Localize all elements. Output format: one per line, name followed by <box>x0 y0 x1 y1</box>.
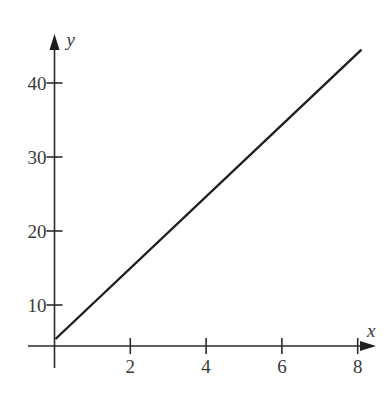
x-tick-label: 6 <box>277 356 287 377</box>
y-axis-arrow-icon <box>50 34 60 50</box>
y-tick-label: 20 <box>28 221 47 242</box>
x-axis-label: x <box>366 320 376 341</box>
data-line <box>56 50 362 339</box>
x-tick-label: 4 <box>201 356 211 377</box>
x-tick-label: 2 <box>126 356 136 377</box>
data-series <box>56 50 362 339</box>
y-axis-label: y <box>65 29 76 50</box>
y-tick-label: 40 <box>28 73 47 94</box>
y-tick-label: 10 <box>28 295 47 316</box>
line-chart: x y 2468 10203040 <box>0 0 391 393</box>
y-tick-label: 30 <box>28 147 47 168</box>
y-ticks: 10203040 <box>28 73 63 316</box>
x-tick-label: 8 <box>353 356 363 377</box>
x-axis-arrow-icon <box>360 341 376 351</box>
x-ticks: 2468 <box>126 338 363 377</box>
